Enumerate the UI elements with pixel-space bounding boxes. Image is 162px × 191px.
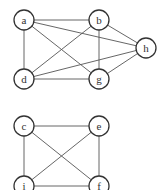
node-label-b: b (96, 14, 102, 26)
node-label-h: h (143, 42, 149, 54)
graph-diagram: abhdgceif (0, 0, 162, 190)
edge-d-h (24, 48, 146, 79)
node-label-c: c (22, 120, 27, 132)
node-label-g: g (96, 73, 102, 85)
node-label-i: i (22, 180, 25, 191)
node-label-e: e (97, 120, 102, 132)
node-label-a: a (22, 14, 27, 26)
node-label-f: f (97, 180, 101, 191)
node-label-d: d (21, 73, 27, 85)
